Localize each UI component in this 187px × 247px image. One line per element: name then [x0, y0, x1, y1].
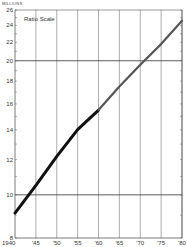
- y-tick-label: 10: [6, 192, 13, 198]
- y-tick-label: 12: [6, 157, 13, 163]
- x-tick-label: '70: [136, 240, 144, 246]
- y-tick-label: 14: [6, 127, 13, 133]
- x-tick-label: '45: [32, 240, 40, 246]
- y-tick-label: 22: [6, 39, 13, 45]
- scale-annotation: Ratio Scale: [24, 16, 55, 22]
- x-tick-label: '55: [74, 240, 82, 246]
- x-tick-label: '75: [157, 240, 165, 246]
- axes: 81012141618202224261940'45'50'55'60'65'7…: [2, 7, 187, 246]
- x-tick-label: '80: [178, 240, 186, 246]
- x-tick-label: '50: [53, 240, 61, 246]
- y-tick-label: 24: [6, 22, 13, 28]
- x-tick-label: 1940: [2, 240, 16, 246]
- x-tick-label: '65: [115, 240, 123, 246]
- y-tick-label: 26: [6, 7, 13, 13]
- y-tick-label: 20: [6, 58, 13, 64]
- x-tick-label: '60: [95, 240, 103, 246]
- grid: [15, 10, 182, 238]
- y-tick-label: 16: [6, 101, 13, 107]
- y-axis-unit-label: MILLIONS: [2, 1, 22, 6]
- y-tick-label: 18: [6, 78, 13, 84]
- line-chart: 81012141618202224261940'45'50'55'60'65'7…: [0, 0, 187, 247]
